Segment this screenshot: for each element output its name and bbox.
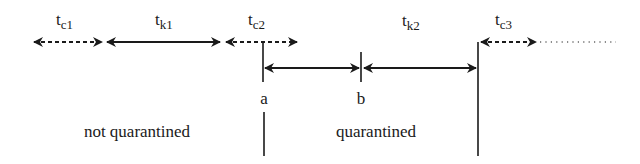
timeline-diagram: tc1 tk1 tc2 tk2 tc3 a b not quarantined …	[0, 0, 640, 164]
label-tc2: tc2	[248, 10, 265, 32]
region-not-quarantined: not quarantined	[84, 122, 191, 141]
label-tk1: tk1	[155, 10, 173, 32]
label-tc1: tc1	[56, 10, 73, 32]
region-quarantined: quarantined	[336, 122, 417, 141]
point-a-label: a	[260, 89, 268, 108]
label-tc3: tc3	[495, 10, 512, 32]
point-b-label: b	[357, 89, 366, 108]
label-tk2: tk2	[402, 11, 420, 33]
